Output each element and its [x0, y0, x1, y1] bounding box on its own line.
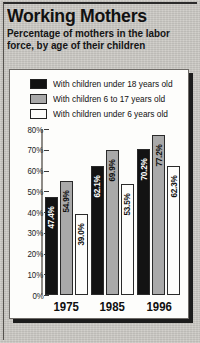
legend-label-under-18: With children under 18 years old	[53, 79, 173, 89]
y-tick-20: 20%	[13, 254, 47, 255]
bar-value-1985-under-6: 53.5%	[123, 193, 132, 215]
bar-1985-6-to-17: 69.9%	[106, 150, 119, 295]
y-tick-mark-0	[44, 295, 49, 296]
bar-value-1975-under-6: 39.0%	[77, 224, 86, 246]
bar-groups: 47.4% 54.9% 39.0% 62.1% 69.9% 53.5%	[43, 129, 182, 295]
chart-legend: With children under 18 years old With ch…	[30, 77, 176, 122]
y-tick-60: 60%	[13, 171, 47, 172]
legend-label-6-to-17: With children 6 to 17 years old	[53, 94, 165, 104]
legend-item-6-to-17: With children 6 to 17 years old	[30, 92, 176, 105]
bar-value-1985-under-18: 62.1%	[93, 176, 102, 198]
page-subtitle: Percentage of mothers in the labor force…	[7, 28, 191, 51]
x-label-1975: 1975	[44, 300, 88, 314]
bar-1975-under-6: 39.0%	[75, 214, 88, 295]
bar-1975-under-18: 47.4%	[45, 197, 58, 295]
x-axis-labels: 1975 1985 1996	[43, 300, 182, 314]
y-tick-10: 10%	[13, 274, 47, 275]
x-label-1985: 1985	[90, 300, 134, 314]
legend-swatch-icon-under-6	[30, 109, 47, 119]
bar-group-1975: 47.4% 54.9% 39.0%	[43, 181, 89, 295]
legend-swatch-icon-6-to-17	[30, 94, 47, 104]
y-tick-0: 0%	[13, 295, 47, 296]
bar-1996-under-18: 70.2%	[137, 149, 150, 295]
bar-value-1975-6-to-17: 54.9%	[62, 191, 71, 213]
bar-group-1985: 62.1% 69.9% 53.5%	[89, 150, 135, 295]
y-tick-70: 70%	[13, 150, 47, 151]
bar-1996-6-to-17: 77.2%	[152, 135, 165, 295]
bar-1975-6-to-17: 54.9%	[60, 181, 73, 295]
bar-value-1996-under-18: 70.2%	[139, 159, 148, 181]
y-tick-80: 80%	[13, 129, 47, 130]
y-tick-50: 50%	[13, 191, 47, 192]
bar-value-1985-6-to-17: 69.9%	[108, 159, 117, 181]
legend-label-under-6: With children under 6 years old	[53, 109, 168, 119]
y-tick-30: 30%	[13, 233, 47, 234]
bar-value-1996-under-6: 62.3%	[169, 175, 178, 197]
page-title: Working Mothers	[7, 6, 179, 26]
bar-1985-under-6: 53.5%	[121, 184, 134, 295]
bar-value-1975-under-18: 47.4%	[47, 206, 56, 228]
bar-1996-under-6: 62.3%	[167, 166, 180, 295]
legend-item-under-18: With children under 18 years old	[30, 77, 176, 90]
header: Working Mothers Percentage of mothers in…	[7, 6, 192, 51]
bar-1985-under-18: 62.1%	[91, 166, 104, 295]
plot-area: 80% 70% 60% 50% 40% 30% 20% 10%	[41, 129, 182, 295]
bar-value-1996-6-to-17: 77.2%	[154, 144, 163, 166]
y-tick-40: 40%	[13, 212, 47, 213]
x-label-1996: 1996	[137, 300, 181, 314]
chart-panel: With children under 18 years old With ch…	[9, 69, 189, 319]
bar-group-1996: 70.2% 77.2% 62.3%	[136, 135, 182, 295]
legend-item-under-6: With children under 6 years old	[30, 107, 176, 120]
legend-swatch-icon-under-18	[30, 79, 47, 89]
